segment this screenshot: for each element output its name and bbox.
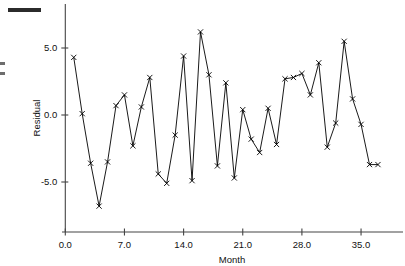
x-tick-label: 21.0 <box>234 239 253 250</box>
data-point-marker <box>308 92 313 97</box>
y-axis-ticks: -5.00.05.0 <box>41 42 68 187</box>
data-point-marker <box>249 137 254 142</box>
scan-edge-mark <box>8 8 41 12</box>
chart-figure: -5.00.05.0 0.07.014.021.028.035.0 Month … <box>0 0 405 266</box>
x-tick-label: 14.0 <box>174 239 193 250</box>
residual-series-line <box>74 32 378 206</box>
y-tick-label: 0.0 <box>44 109 57 120</box>
x-axis-title: Month <box>219 254 245 265</box>
x-tick-label: 7.0 <box>118 239 131 250</box>
scan-edge-fragment-icon-2 <box>0 72 5 75</box>
scan-edge-fragment-icon <box>0 62 5 65</box>
y-tick-label: -5.0 <box>41 176 57 187</box>
residual-series-markers <box>71 29 380 208</box>
x-tick-label: 0.0 <box>59 239 72 250</box>
x-tick-label: 28.0 <box>293 239 312 250</box>
data-point-marker <box>299 71 304 76</box>
residual-line-chart: -5.00.05.0 0.07.014.021.028.035.0 Month … <box>0 0 405 266</box>
x-tick-label: 35.0 <box>352 239 371 250</box>
y-axis-title: Residual <box>31 100 42 137</box>
y-tick-label: 5.0 <box>44 42 57 53</box>
